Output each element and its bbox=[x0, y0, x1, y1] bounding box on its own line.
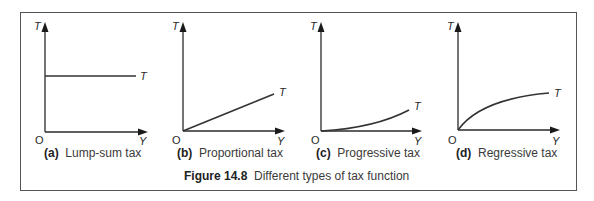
y-axis-label: T bbox=[447, 20, 455, 32]
x-axis-arrow-icon bbox=[550, 127, 560, 134]
figure-caption: Figure 14.8 Different types of tax funct… bbox=[184, 169, 409, 183]
subcaption-title: Progressive tax bbox=[337, 146, 420, 160]
y-axis-arrow-icon bbox=[455, 22, 462, 32]
subcaption-b: (b) Proportional tax bbox=[177, 146, 283, 160]
subcaption-a: (a) Lump-sum tax bbox=[44, 146, 141, 160]
tax-curve bbox=[458, 93, 549, 130]
origin-label: O bbox=[311, 134, 320, 146]
y-axis-arrow-icon bbox=[318, 22, 325, 32]
tax-curve bbox=[321, 110, 409, 131]
subcaption-d: (d) Regressive tax bbox=[456, 146, 557, 160]
curve-label: T bbox=[414, 100, 422, 112]
origin-label: O bbox=[35, 134, 44, 146]
x-axis-arrow-icon bbox=[412, 128, 422, 135]
y-axis-label: T bbox=[172, 20, 180, 32]
tax-line bbox=[183, 94, 274, 131]
figure-title: Different types of tax function bbox=[254, 169, 409, 183]
y-axis-label: T bbox=[34, 20, 42, 32]
curve-label: T bbox=[279, 86, 287, 98]
y-axis-arrow-icon bbox=[180, 22, 187, 32]
subcaption-title: Proportional tax bbox=[199, 146, 283, 160]
panel-a-lump-sum: T T O Y bbox=[34, 20, 148, 147]
y-axis-label: T bbox=[310, 20, 318, 32]
subcaption-tag: (a) bbox=[44, 146, 59, 160]
x-axis-arrow-icon bbox=[275, 128, 285, 135]
subcaption-c: (c) Progressive tax bbox=[316, 146, 420, 160]
subcaption-title: Lump-sum tax bbox=[65, 146, 141, 160]
subcaption-title: Regressive tax bbox=[478, 146, 557, 160]
subcaption-tag: (d) bbox=[456, 146, 471, 160]
origin-label: O bbox=[172, 134, 181, 146]
curve-label: T bbox=[140, 70, 148, 82]
curve-label: T bbox=[554, 87, 562, 99]
subcaption-tag: (b) bbox=[177, 146, 192, 160]
panel-c-progressive: T T O Y bbox=[310, 20, 422, 147]
y-axis-arrow-icon bbox=[42, 22, 49, 32]
panel-d-regressive: T T O Y bbox=[447, 20, 562, 147]
subcaption-tag: (c) bbox=[316, 146, 331, 160]
panel-b-proportional: T T O Y bbox=[172, 20, 287, 147]
figure-number: Figure 14.8 bbox=[184, 169, 247, 183]
origin-label: O bbox=[448, 134, 457, 146]
